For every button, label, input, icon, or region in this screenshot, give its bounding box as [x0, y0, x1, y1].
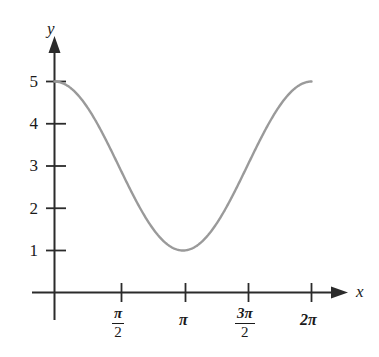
x-axis-arrow-icon [331, 287, 348, 299]
x-tick-label-2pi: 2π [300, 312, 317, 328]
x-axis-label: x [356, 283, 364, 300]
x-tick-label-3pi-over-2: 3π 2 [235, 306, 255, 341]
x-tick-label-pi-over-2: π 2 [112, 306, 124, 341]
y-axis-label: y [47, 20, 55, 37]
y-axis-arrow-icon [49, 36, 61, 53]
y-tick-label-1: 1 [22, 242, 38, 259]
fraction-numerator: 3π [235, 306, 255, 324]
x-tick-label-pi: π [179, 312, 188, 328]
y-tick-label-5: 5 [22, 73, 38, 90]
function-curve [55, 82, 312, 251]
fraction-denominator: 2 [241, 324, 249, 341]
fraction-numerator: π [112, 306, 124, 324]
y-tick-label-2: 2 [22, 200, 38, 217]
graph-figure: y x 5 4 3 2 1 π 2 π 3π 2 2π [0, 0, 379, 357]
y-tick-label-4: 4 [22, 115, 38, 132]
function-plot [0, 0, 379, 357]
y-tick-label-3: 3 [22, 157, 38, 174]
fraction-denominator: 2 [114, 324, 122, 341]
y-axis-ticks [46, 82, 66, 251]
